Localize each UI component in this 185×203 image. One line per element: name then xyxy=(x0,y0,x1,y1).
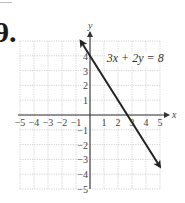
y-tick-label: 3 xyxy=(83,66,88,77)
y-tick-label: −3 xyxy=(77,154,88,165)
y-tick-label: 1 xyxy=(83,95,88,106)
x-axis-label: x xyxy=(171,109,177,120)
y-tick-label: −1 xyxy=(77,125,88,136)
equation-label: 3x + 2y = 8 xyxy=(106,51,164,65)
x-tick-label: 5 xyxy=(158,117,163,128)
x-tick-label: −2 xyxy=(57,117,68,128)
x-tick-label: 1 xyxy=(102,117,107,128)
y-axis-label: y xyxy=(87,20,93,31)
x-tick-label: −4 xyxy=(29,117,40,128)
y-tick-label: −2 xyxy=(77,140,88,151)
y-tick-label: 2 xyxy=(83,80,88,91)
y-tick-label: −5 xyxy=(77,184,88,195)
x-tick-label: 4 xyxy=(144,117,149,128)
x-tick-label: −3 xyxy=(43,117,54,128)
y-tick-label: −4 xyxy=(77,169,88,180)
x-tick-label: 2 xyxy=(116,117,121,128)
coordinate-plane: xy−5−4−3−2−1123454321−1−2−3−4−53x + 2y =… xyxy=(0,0,185,203)
x-tick-label: −5 xyxy=(15,117,26,128)
